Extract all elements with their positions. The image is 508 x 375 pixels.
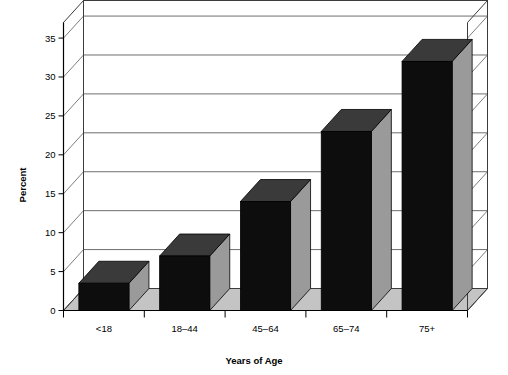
y-tick-label: 15 bbox=[45, 188, 56, 199]
bar-front-face bbox=[79, 283, 129, 310]
bar-front-face bbox=[402, 61, 452, 310]
x-axis-title: Years of Age bbox=[225, 355, 282, 366]
bar bbox=[402, 39, 472, 310]
y-tick-label: 35 bbox=[45, 33, 56, 44]
x-tick-label: 75+ bbox=[419, 323, 436, 334]
bar bbox=[240, 180, 310, 311]
x-tick-label: 18–44 bbox=[171, 323, 197, 334]
bar-front-face bbox=[321, 131, 371, 310]
y-tick-label: 25 bbox=[45, 110, 56, 121]
y-tick-label: 10 bbox=[45, 227, 56, 238]
x-tick-label: 45–64 bbox=[252, 323, 278, 334]
y-axis-title: Percent bbox=[17, 167, 28, 203]
bar-front-face bbox=[160, 256, 210, 310]
y-tick-label: 0 bbox=[50, 305, 55, 316]
bar bbox=[321, 109, 391, 310]
y-tick-label: 30 bbox=[45, 71, 56, 82]
bar-chart-figure: 05101520253035 <1818–4445–6465–7475+ Per… bbox=[0, 0, 508, 375]
bar-front-face bbox=[240, 202, 290, 311]
bar-side-face bbox=[452, 39, 472, 310]
y-tick-label: 20 bbox=[45, 149, 56, 160]
x-tick-label: <18 bbox=[96, 323, 112, 334]
bar bbox=[160, 234, 230, 310]
x-tick-label: 65–74 bbox=[333, 323, 359, 334]
bar-side-face bbox=[291, 180, 311, 311]
chart-canvas: 05101520253035 <1818–4445–6465–7475+ Per… bbox=[0, 0, 508, 375]
bar-side-face bbox=[371, 109, 391, 310]
y-tick-label: 5 bbox=[50, 266, 55, 277]
